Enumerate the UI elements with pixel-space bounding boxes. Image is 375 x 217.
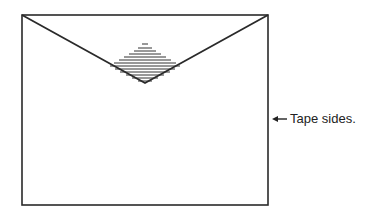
envelope-flap xyxy=(22,15,268,83)
left-arrow-icon xyxy=(272,116,287,122)
envelope-diagram xyxy=(0,0,375,217)
hatched-triangle xyxy=(110,44,180,81)
tape-sides-label: Tape sides. xyxy=(290,110,356,128)
